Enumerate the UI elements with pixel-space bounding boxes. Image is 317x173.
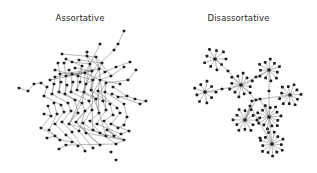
graph-node bbox=[251, 100, 254, 103]
graph-node bbox=[57, 62, 60, 65]
graph-node bbox=[99, 132, 102, 135]
graph-node bbox=[128, 130, 131, 133]
graph-node bbox=[300, 93, 303, 96]
graph-node bbox=[78, 130, 81, 133]
graph-edge bbox=[44, 87, 47, 96]
graph-edge bbox=[241, 77, 256, 85]
graph-edge bbox=[72, 132, 85, 151]
graph-node bbox=[267, 68, 270, 71]
graph-node bbox=[111, 93, 114, 96]
graph-node bbox=[220, 63, 223, 66]
graph-node bbox=[84, 110, 87, 113]
graph-node bbox=[266, 128, 269, 131]
graph-node bbox=[119, 112, 122, 115]
graph-node bbox=[84, 72, 87, 75]
graph-node bbox=[276, 135, 279, 138]
graph-node bbox=[259, 69, 262, 72]
graph-node bbox=[78, 59, 81, 62]
graph-node bbox=[293, 83, 296, 86]
graph-node bbox=[46, 137, 49, 140]
graph-node bbox=[119, 83, 122, 86]
disassortative-panel: Disassortative bbox=[160, 0, 317, 173]
graph-node bbox=[101, 62, 104, 65]
graph-node bbox=[206, 80, 209, 83]
graph-node bbox=[65, 134, 68, 137]
disassortative-network-graph bbox=[160, 0, 317, 173]
graph-node bbox=[40, 127, 43, 130]
graph-edge bbox=[260, 95, 290, 99]
graph-node bbox=[116, 107, 119, 110]
graph-node bbox=[43, 95, 46, 98]
graph-node bbox=[209, 65, 212, 68]
graph-node bbox=[123, 124, 126, 127]
graph-node bbox=[139, 103, 142, 106]
graph-node bbox=[92, 79, 95, 82]
graph-edge bbox=[55, 124, 66, 135]
graph-edge bbox=[118, 31, 124, 44]
graph-node bbox=[235, 123, 238, 126]
graph-node bbox=[256, 119, 259, 122]
graph-edge bbox=[113, 87, 127, 96]
graph-node bbox=[84, 150, 87, 153]
graph-node bbox=[199, 83, 202, 86]
graph-node bbox=[99, 43, 102, 46]
graph-node bbox=[249, 105, 252, 108]
graph-node bbox=[71, 73, 74, 76]
graph-node bbox=[221, 88, 224, 91]
graph-node bbox=[59, 139, 62, 142]
graph-edge bbox=[110, 104, 113, 115]
graph-node bbox=[294, 103, 297, 106]
graph-node bbox=[258, 116, 261, 119]
graph-node bbox=[98, 112, 101, 115]
graph-node bbox=[54, 69, 57, 72]
graph-node bbox=[97, 90, 100, 93]
graph-node bbox=[115, 159, 118, 162]
graph-node bbox=[246, 76, 249, 79]
graph-edge bbox=[66, 135, 78, 146]
graph-node bbox=[145, 100, 148, 103]
graph-node bbox=[68, 69, 71, 72]
graph-node bbox=[79, 81, 82, 84]
graph-node bbox=[82, 122, 85, 125]
graph-node bbox=[105, 82, 108, 85]
graph-node bbox=[203, 90, 206, 93]
graph-node bbox=[81, 102, 84, 105]
graph-node bbox=[278, 65, 281, 68]
graph-node bbox=[46, 86, 49, 89]
graph-node bbox=[216, 68, 219, 71]
graph-node bbox=[92, 147, 95, 150]
graph-node bbox=[127, 79, 130, 82]
graph-node bbox=[67, 102, 70, 105]
graph-node bbox=[267, 131, 270, 134]
graph-node bbox=[91, 109, 94, 112]
graph-node bbox=[271, 125, 274, 128]
graph-node bbox=[95, 56, 98, 59]
graph-node bbox=[91, 70, 94, 73]
graph-node bbox=[126, 116, 129, 119]
graph-node bbox=[275, 77, 278, 80]
graph-node bbox=[269, 106, 272, 109]
graph-node bbox=[261, 109, 264, 112]
graph-node bbox=[230, 76, 233, 79]
graph-node bbox=[83, 91, 86, 94]
graph-node bbox=[238, 95, 241, 98]
graph-node bbox=[210, 85, 213, 88]
graph-node bbox=[225, 58, 228, 61]
graph-node bbox=[102, 100, 105, 103]
graph-node bbox=[271, 155, 274, 158]
graph-node bbox=[244, 128, 247, 131]
graph-node bbox=[198, 100, 201, 103]
graph-node bbox=[276, 119, 279, 122]
graph-node bbox=[64, 93, 67, 96]
graph-node bbox=[53, 102, 56, 105]
graph-node bbox=[65, 75, 68, 78]
graph-node bbox=[110, 123, 113, 126]
graph-node bbox=[243, 92, 246, 95]
graph-node bbox=[117, 127, 120, 130]
graph-edge bbox=[69, 92, 84, 124]
graph-node bbox=[75, 121, 78, 124]
graph-edge bbox=[100, 76, 111, 80]
graph-node bbox=[123, 66, 126, 69]
graph-edge bbox=[128, 70, 136, 80]
graph-edge bbox=[41, 116, 51, 128]
